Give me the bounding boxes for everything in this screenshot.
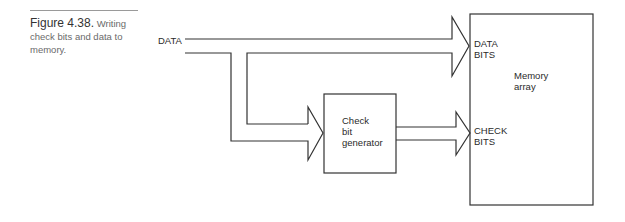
data-to-generator-arrow (185, 53, 323, 160)
check-bits-label: CHECK BITS (474, 125, 507, 147)
data-bits-label: DATA BITS (474, 38, 498, 60)
memory-array-label: Memory array (514, 70, 548, 92)
check-bit-generator-label: Check bit generator (342, 115, 383, 148)
check-bits-arrow (396, 112, 470, 155)
block-diagram (0, 0, 625, 222)
data-input-label: DATA (158, 35, 182, 46)
data-bits-arrow (185, 17, 469, 124)
